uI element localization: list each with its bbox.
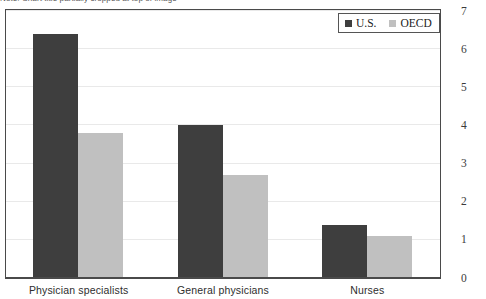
chart-legend: U.S.OECD <box>338 13 440 33</box>
x-axis-baseline <box>6 277 440 279</box>
legend-entry-us: U.S. <box>345 17 376 29</box>
legend-entry-oecd: OECD <box>389 17 431 29</box>
y-axis-tick-6: 6 <box>461 43 467 55</box>
y-axis-tick-1: 1 <box>461 233 467 245</box>
plot-area <box>6 10 440 278</box>
bar-us-2 <box>322 225 367 278</box>
y-axis-tick-4: 4 <box>461 119 467 131</box>
x-axis-tick-2: Nurses <box>350 284 384 296</box>
y-axis: 01234567 <box>443 0 486 299</box>
legend-label: U.S. <box>356 17 376 29</box>
bar-oecd-2 <box>367 236 412 278</box>
bar-us-0 <box>33 34 78 278</box>
y-axis-tick-2: 2 <box>461 195 467 207</box>
bar-us-1 <box>178 125 223 278</box>
cropped-header-text-label: Note: Chart title partially cropped at t… <box>0 0 420 3</box>
x-axis: Physician specialistsGeneral physiciansN… <box>5 282 441 299</box>
square-swatch-icon <box>345 20 352 27</box>
bar-chart <box>5 9 441 279</box>
bar-oecd-1 <box>223 175 268 278</box>
y-axis-tick-5: 5 <box>461 81 467 93</box>
x-axis-tick-0: Physician specialists <box>29 284 128 296</box>
legend-label: OECD <box>400 17 431 29</box>
y-axis-tick-0: 0 <box>461 272 467 284</box>
y-axis-tick-7: 7 <box>461 5 467 17</box>
bar-oecd-0 <box>78 133 123 278</box>
y-axis-tick-3: 3 <box>461 157 467 169</box>
gridline <box>6 10 440 11</box>
x-axis-tick-1: General physicians <box>177 284 269 296</box>
cropped-header-text: Note: Chart title partially cropped at t… <box>0 0 420 6</box>
square-swatch-icon <box>389 20 396 27</box>
